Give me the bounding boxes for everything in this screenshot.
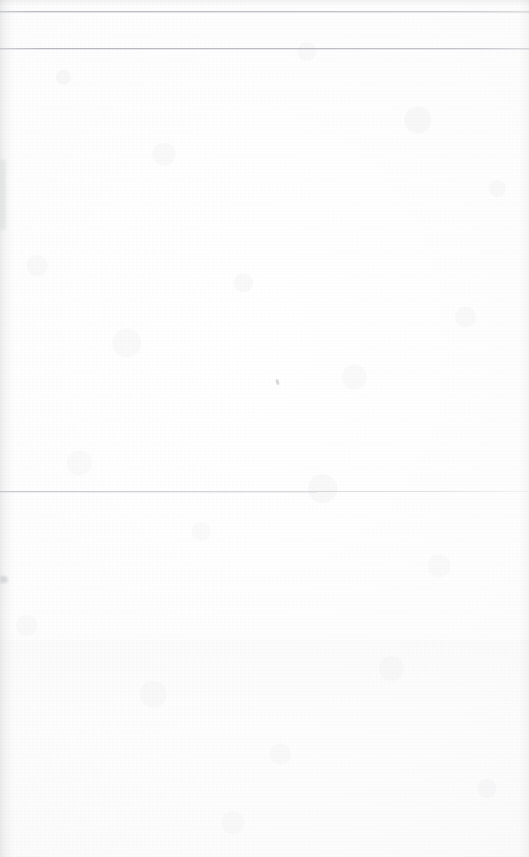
horizontal-rule-middle [0,491,529,492]
scan-smudge-left-upper [0,160,6,230]
scan-speck-left-edge [0,576,8,583]
paper-texture-layer-lower [0,0,529,857]
scanned-page [0,0,529,857]
horizontal-rule-top-2 [0,48,529,49]
paper-grain-overlay [0,0,529,857]
scan-shading-lower [0,640,529,760]
scan-edge-left [0,0,14,857]
paper-texture-layer-upper [0,0,529,857]
scan-edge-right [519,0,529,857]
horizontal-rule-top-1 [0,11,529,12]
scan-speck-center [275,379,280,386]
scan-edge-top [0,0,529,6]
